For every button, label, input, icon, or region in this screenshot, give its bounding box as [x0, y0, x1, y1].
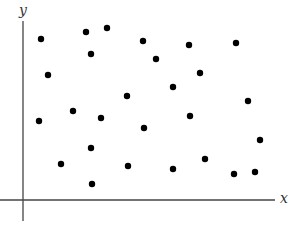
data-point [125, 163, 131, 169]
data-point [231, 171, 237, 177]
data-point [124, 93, 130, 99]
data-point [89, 181, 95, 187]
data-point [58, 161, 64, 167]
data-point [98, 115, 104, 121]
data-point [233, 40, 239, 46]
x-axis-label: x [280, 190, 288, 206]
data-point [70, 108, 76, 114]
data-point [170, 84, 176, 90]
axes: y x [0, 2, 288, 221]
data-point [153, 56, 159, 62]
data-points [36, 25, 263, 187]
data-point [38, 36, 44, 42]
data-point [45, 72, 51, 78]
data-point [245, 98, 251, 104]
data-point [252, 169, 258, 175]
data-point [36, 118, 42, 124]
data-point [141, 125, 147, 131]
data-point [186, 42, 192, 48]
data-point [170, 166, 176, 172]
data-point [83, 29, 89, 35]
data-point [257, 137, 263, 143]
data-point [88, 51, 94, 57]
data-point [88, 145, 94, 151]
y-axis-label: y [18, 2, 28, 18]
data-point [104, 25, 110, 31]
data-point [202, 156, 208, 162]
data-point [197, 70, 203, 76]
data-point [187, 113, 193, 119]
scatter-chart: y x [0, 0, 294, 233]
data-point [140, 38, 146, 44]
